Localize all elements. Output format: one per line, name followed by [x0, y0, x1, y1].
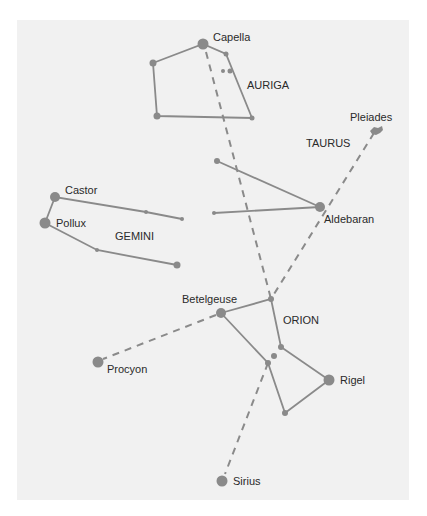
- pleiades-cluster-icon: [370, 126, 383, 135]
- star-bellatrix: [268, 296, 274, 302]
- label-pleiades: Pleiades: [350, 111, 393, 123]
- star-auriga-ne: [224, 52, 229, 57]
- star-capella: [198, 39, 209, 50]
- star-taurus-n: [214, 158, 220, 164]
- star-chart: Capella Pleiades Aldebaran Castor Pollux…: [0, 0, 427, 516]
- label-capella: Capella: [213, 31, 251, 43]
- constellation-labels: AURIGA TAURUS GEMINI ORION: [115, 79, 350, 326]
- star-auriga-kid2: [228, 69, 233, 74]
- star-auriga-kid1: [221, 69, 225, 73]
- label-rigel: Rigel: [340, 374, 365, 386]
- star-betelgeuse: [216, 308, 226, 318]
- star-auriga-sw: [154, 113, 161, 120]
- star-auriga-se: [250, 116, 255, 121]
- label-castor: Castor: [65, 184, 98, 196]
- label-betelgeuse: Betelgeuse: [182, 293, 237, 305]
- label-taurus: TAURUS: [306, 137, 350, 149]
- star-rigel: [324, 375, 335, 386]
- label-procyon: Procyon: [107, 363, 147, 375]
- star-alnitak: [265, 360, 271, 366]
- guide-line-betelgeuse-procyon: [103, 315, 216, 359]
- taurus-outline-lower: [214, 207, 320, 213]
- star-castor: [50, 192, 60, 202]
- guide-lines: [103, 52, 374, 474]
- star-mintaka: [278, 344, 284, 350]
- stars: [40, 39, 384, 487]
- label-auriga: AURIGA: [247, 79, 290, 91]
- taurus-outline-upper: [217, 161, 320, 207]
- star-aldebaran: [315, 202, 325, 212]
- star-gemini-c2: [144, 210, 148, 214]
- label-gemini: GEMINI: [115, 230, 154, 242]
- star-gemini-p3: [174, 262, 181, 269]
- label-orion: ORION: [283, 314, 319, 326]
- label-aldebaran: Aldebaran: [324, 213, 374, 225]
- star-procyon: [93, 357, 104, 368]
- star-sirius: [217, 476, 228, 487]
- star-gemini-p2: [95, 248, 99, 252]
- star-pollux: [40, 218, 51, 229]
- label-pollux: Pollux: [56, 217, 86, 229]
- star-auriga-w: [150, 60, 157, 67]
- label-sirius: Sirius: [233, 475, 261, 487]
- star-alnilam: [271, 353, 277, 359]
- star-taurus-w: [212, 211, 216, 215]
- star-gemini-c3: [180, 217, 184, 221]
- star-labels: Capella Pleiades Aldebaran Castor Pollux…: [56, 31, 393, 487]
- guide-line-belt-sirius: [225, 363, 268, 474]
- gemini-pollux-line: [45, 223, 177, 265]
- constellation-lines: [45, 44, 329, 413]
- star-saiph: [282, 410, 288, 416]
- auriga-outline: [153, 44, 252, 118]
